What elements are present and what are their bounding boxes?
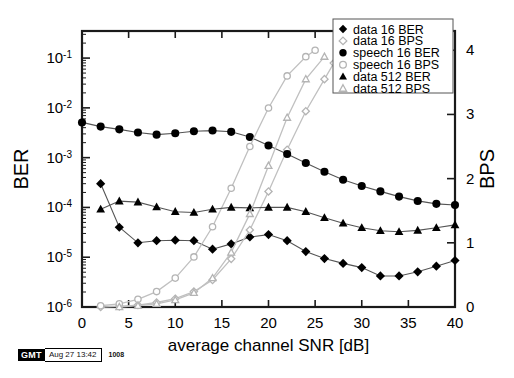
data-point xyxy=(134,128,142,136)
gmt-date: Aug 27 13:42 xyxy=(45,348,102,362)
data-point xyxy=(358,182,366,190)
data-point xyxy=(451,201,459,209)
data-point xyxy=(339,176,347,184)
x-tick-label: 0 xyxy=(78,314,86,331)
x-tick-label: 10 xyxy=(167,314,184,331)
data-point xyxy=(413,267,422,276)
y-tick-label: 10-2 xyxy=(46,98,72,116)
data-point xyxy=(284,114,291,120)
gmt-number: 1008 xyxy=(109,351,125,358)
y-tick-label: 10-6 xyxy=(46,298,72,316)
data-point xyxy=(301,247,310,256)
data-point xyxy=(96,205,105,213)
data-point xyxy=(189,236,198,245)
data-point xyxy=(209,127,217,135)
data-point xyxy=(209,224,215,230)
y-tick-label: 10-5 xyxy=(46,248,72,266)
data-point xyxy=(321,76,328,83)
data-point xyxy=(450,256,459,265)
data-point xyxy=(227,203,236,211)
data-point xyxy=(246,210,253,216)
y-tick-label: 10-3 xyxy=(46,148,72,166)
data-point xyxy=(320,254,329,263)
data-point xyxy=(312,47,318,53)
x-tick-label: 30 xyxy=(353,314,370,331)
data-point xyxy=(264,230,273,239)
data-point xyxy=(283,150,291,158)
x-tick-label: 35 xyxy=(400,314,417,331)
y2-tick-label: 3 xyxy=(466,105,474,122)
x-tick-label: 40 xyxy=(447,314,464,331)
data-point xyxy=(265,188,272,195)
data-point xyxy=(376,271,385,280)
data-point xyxy=(152,236,161,245)
data-point xyxy=(395,193,403,201)
data-point xyxy=(283,203,292,211)
y2-tick-label: 2 xyxy=(466,170,474,187)
x-axis-label: average channel SNR [dB] xyxy=(168,336,369,355)
data-point xyxy=(264,203,273,211)
data-point xyxy=(303,54,309,60)
x-tick-label: 15 xyxy=(214,314,231,331)
data-point xyxy=(264,142,272,150)
data-point xyxy=(432,262,441,271)
data-point xyxy=(97,123,105,131)
data-point xyxy=(284,73,290,79)
y-tick-label: 10-1 xyxy=(46,49,72,67)
data-point xyxy=(97,303,103,309)
data-point xyxy=(153,288,159,294)
data-point xyxy=(115,197,124,205)
data-point xyxy=(451,220,460,228)
series-line-speech-16-bps xyxy=(101,50,315,305)
data-point xyxy=(321,53,328,59)
data-point xyxy=(191,254,197,260)
data-point xyxy=(265,105,271,111)
data-point xyxy=(171,236,180,245)
data-point xyxy=(376,187,384,195)
data-point xyxy=(414,197,422,205)
data-point xyxy=(394,271,403,280)
series-line-data-512-ber xyxy=(101,201,455,232)
data-point xyxy=(340,61,347,68)
data-point xyxy=(265,162,272,168)
x-tick-label: 25 xyxy=(307,314,324,331)
y2-tick-label: 1 xyxy=(466,234,474,251)
data-point xyxy=(96,179,105,188)
data-point xyxy=(153,131,161,139)
data-point xyxy=(172,275,178,281)
y2-axis-label: BPS xyxy=(476,149,498,189)
chart-root: 0510152025303540average channel SNR [dB]… xyxy=(0,0,514,378)
data-point xyxy=(246,226,253,233)
data-point xyxy=(115,125,123,133)
data-point xyxy=(320,168,328,176)
x-tick-label: 5 xyxy=(124,314,132,331)
data-point xyxy=(171,129,179,137)
footer-stamp: GMT Aug 27 13:42 1008 xyxy=(18,348,124,361)
y2-tick-label: 0 xyxy=(466,298,474,315)
y2-tick-label: 4 xyxy=(466,41,474,58)
data-point xyxy=(227,128,235,136)
data-point xyxy=(228,185,234,191)
data-point xyxy=(283,236,292,245)
data-point xyxy=(208,245,217,254)
series-line-data-16-bps xyxy=(101,63,334,307)
data-point xyxy=(357,263,366,272)
data-point xyxy=(339,259,348,268)
data-point xyxy=(78,118,86,126)
data-point xyxy=(302,159,310,167)
data-point xyxy=(302,108,309,115)
data-point xyxy=(432,200,440,208)
chart-plot-area: 0510152025303540average channel SNR [dB]… xyxy=(0,0,514,378)
data-point xyxy=(190,127,198,135)
data-point xyxy=(228,249,235,255)
y-tick-label: 10-4 xyxy=(46,198,72,216)
data-point xyxy=(247,143,253,149)
data-point xyxy=(339,49,346,56)
x-tick-label: 20 xyxy=(260,314,277,331)
legend-label-5: data 512 BPS xyxy=(353,82,430,96)
y-axis-label: BER xyxy=(10,148,32,189)
gmt-badge: GMT xyxy=(18,349,45,361)
